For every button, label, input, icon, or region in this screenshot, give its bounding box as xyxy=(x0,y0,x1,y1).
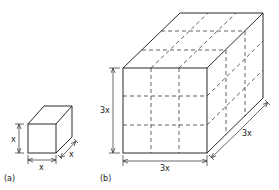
large-cube-top-grid xyxy=(142,13,245,68)
large-cube-height-dimension xyxy=(109,68,120,153)
panel-a-caption: (a) xyxy=(4,174,15,183)
small-cube-depth-dimension xyxy=(58,139,78,159)
large-cube-front-grid xyxy=(123,68,207,153)
small-cube xyxy=(28,106,72,153)
large-cube-depth-label: 3x xyxy=(242,129,252,138)
large-cube-right-face xyxy=(207,13,263,153)
small-cube-front-face xyxy=(28,124,56,153)
large-cube-depth-dimension xyxy=(209,100,270,160)
large-cube-width-label: 3x xyxy=(160,164,170,173)
large-cube-height-label: 3x xyxy=(100,106,110,115)
large-cube-top-face xyxy=(123,13,263,68)
small-cube-right-face xyxy=(56,106,72,153)
diagram-canvas: x x x (a) xyxy=(0,0,279,190)
small-cube-depth-label: x xyxy=(69,150,74,159)
small-cube-width-label: x xyxy=(39,163,44,172)
small-cube-height-dimension xyxy=(15,124,24,153)
small-cube-height-label: x xyxy=(11,135,16,144)
large-cube-front-face xyxy=(123,68,207,153)
large-cube-right-grid xyxy=(207,31,263,135)
panel-b-caption: (b) xyxy=(100,174,111,183)
small-cube-top-face xyxy=(28,106,72,124)
